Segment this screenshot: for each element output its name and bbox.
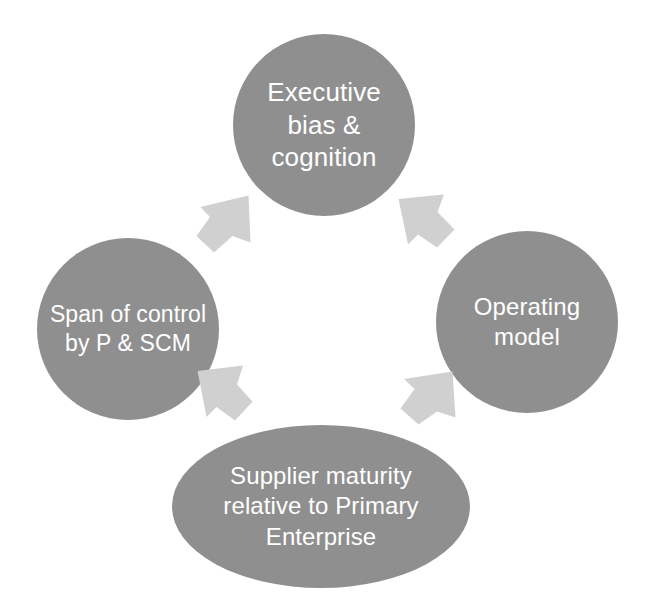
arrow-span-to-executive[interactable] — [197, 196, 251, 253]
node-shape-span[interactable] — [37, 238, 219, 420]
node-shape-supplier[interactable] — [172, 425, 470, 588]
arrow-operating-to-supplier[interactable] — [401, 372, 456, 425]
node-shape-operating[interactable] — [436, 231, 618, 413]
cycle-diagram: Executive bias & cognition Operating mod… — [0, 0, 648, 614]
diagram-shapes — [0, 0, 648, 614]
node-shape-executive[interactable] — [233, 34, 415, 216]
arrow-executive-to-operating[interactable] — [399, 195, 455, 248]
arrow-supplier-to-span[interactable] — [198, 366, 253, 421]
